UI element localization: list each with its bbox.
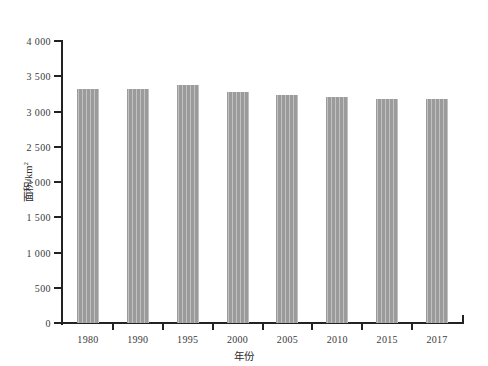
- bar: [177, 85, 199, 323]
- bar: [127, 89, 149, 323]
- x-axis-tick: [311, 323, 313, 330]
- y-axis-tick-label: 4 000: [27, 36, 52, 47]
- y-axis-tick-label: 2 500: [27, 141, 52, 152]
- x-axis-tick: [361, 323, 363, 330]
- x-axis-tick-label: 1980: [77, 334, 98, 345]
- bar: [77, 89, 99, 323]
- bar: [227, 92, 249, 323]
- x-axis-tick: [162, 323, 164, 330]
- y-axis-title-exponent: 2: [22, 162, 30, 166]
- bar: [376, 99, 398, 323]
- x-axis-tick: [411, 323, 413, 330]
- y-axis-tick-label: 3 500: [27, 71, 52, 82]
- y-axis-tick: [54, 40, 61, 42]
- x-axis-tick: [212, 323, 214, 330]
- bar-series: [63, 41, 462, 323]
- bar: [276, 95, 298, 323]
- y-axis-tick-label: 1 000: [27, 247, 52, 258]
- x-axis-tick-label: 2005: [277, 334, 298, 345]
- bar-chart: 05001 0001 5002 0002 5003 0003 5004 000 …: [0, 0, 488, 366]
- y-axis-tick-label: 0: [46, 318, 51, 329]
- y-axis-tick: [54, 287, 61, 289]
- x-axis-tick: [112, 323, 114, 330]
- x-axis-tick: [262, 323, 264, 330]
- y-axis-tick: [54, 181, 61, 183]
- x-axis-tick-label: 2010: [327, 334, 348, 345]
- x-axis-tick-label: 2000: [227, 334, 248, 345]
- y-axis-tick: [54, 216, 61, 218]
- y-axis-tick: [54, 111, 61, 113]
- bar: [326, 97, 348, 323]
- y-axis-tick-label: 3 000: [27, 106, 52, 117]
- x-axis-end-tick: [462, 315, 464, 324]
- plot-area: [63, 41, 462, 323]
- y-axis-tick: [54, 322, 61, 324]
- x-axis-title: 年份: [0, 348, 488, 363]
- y-axis-tick-label: 500: [35, 282, 51, 293]
- y-axis-tick: [54, 75, 61, 77]
- x-axis-tick-label: 2015: [377, 334, 398, 345]
- y-axis-tick: [54, 146, 61, 148]
- bar: [426, 99, 448, 323]
- y-axis-title-text: 面积/km: [23, 166, 34, 202]
- x-axis-tick-label: 1990: [127, 334, 148, 345]
- y-axis-title: 面积/km2: [20, 162, 35, 202]
- x-axis-tick-label: 1995: [177, 334, 198, 345]
- y-axis-tick: [54, 252, 61, 254]
- y-axis-tick-label: 1 500: [27, 212, 52, 223]
- x-axis-tick-label: 2017: [426, 334, 447, 345]
